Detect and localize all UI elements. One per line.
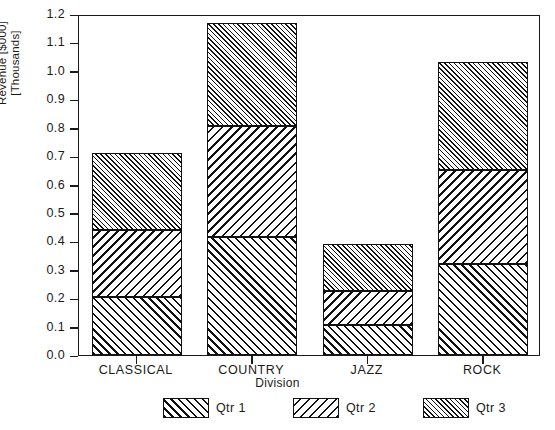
y-tick-label: 0.9: [46, 92, 65, 106]
x-tick-label: ROCK: [463, 363, 502, 377]
y-tick-mark: [70, 185, 78, 187]
legend-label: Qtr 3: [476, 401, 506, 415]
legend-swatch: [163, 398, 209, 418]
y-axis-title: Revenue [$000] [Thousands]: [0, 0, 22, 128]
legend-swatch: [293, 398, 339, 418]
legend-label: Qtr 2: [346, 401, 376, 415]
bar-segment: [92, 153, 182, 230]
y-tick-mark: [70, 213, 78, 215]
y-tick-label: 1.2: [46, 7, 65, 21]
bar-stack: [92, 153, 182, 355]
x-axis-title: Division: [0, 376, 555, 390]
legend-label: Qtr 1: [216, 401, 246, 415]
y-tick-label: 1.0: [46, 64, 65, 78]
y-tick-label: 1.1: [46, 35, 65, 49]
bar-segment: [92, 230, 182, 297]
y-tick-mark: [70, 327, 78, 329]
y-tick-mark: [70, 128, 78, 130]
y-tick-mark: [70, 15, 78, 17]
y-tick-label: 0.8: [46, 121, 65, 135]
y-tick-mark: [70, 43, 78, 45]
legend-item: Qtr 3: [423, 398, 506, 418]
y-tick-mark: [70, 157, 78, 159]
y-tick-label: 0.5: [46, 206, 65, 220]
y-tick-label: 0.7: [46, 149, 65, 163]
y-tick-mark: [70, 100, 78, 102]
bar-segment: [438, 264, 528, 355]
x-tick-label: CLASSICAL: [99, 363, 173, 377]
bar-segment: [207, 23, 297, 127]
chart-legend: Qtr 1Qtr 2Qtr 3: [0, 398, 555, 428]
legend-item: Qtr 2: [293, 398, 376, 418]
y-tick-mark: [70, 356, 78, 358]
bar-segment: [438, 170, 528, 264]
bar-segment: [207, 126, 297, 237]
x-tick-label: COUNTRY: [218, 363, 284, 377]
revenue-by-division-chart: Revenue [$000] [Thousands] 0.00.10.20.30…: [0, 0, 555, 430]
y-tick-mark: [70, 299, 78, 301]
legend-item: Qtr 1: [163, 398, 246, 418]
y-tick-mark: [70, 71, 78, 73]
y-tick-label: 0.1: [46, 320, 65, 334]
plot-area-frame: [78, 15, 540, 356]
y-tick-label: 0.0: [46, 348, 65, 362]
bar-segment: [323, 325, 413, 355]
y-tick-label: 0.4: [46, 234, 65, 248]
bar-stack: [438, 62, 528, 355]
plot-area: [79, 16, 539, 355]
bar-segment: [323, 244, 413, 291]
legend-swatch: [423, 398, 469, 418]
y-tick-label: 0.3: [46, 263, 65, 277]
bar-stack: [207, 23, 297, 355]
y-tick-label: 0.2: [46, 291, 65, 305]
bar-segment: [323, 291, 413, 325]
y-tick-label: 0.6: [46, 178, 65, 192]
bar-segment: [207, 237, 297, 355]
bar-segment: [92, 297, 182, 355]
y-tick-mark: [70, 270, 78, 272]
bar-stack: [323, 244, 413, 355]
x-tick-label: JAZZ: [351, 363, 383, 377]
y-tick-mark: [70, 242, 78, 244]
bar-segment: [438, 62, 528, 170]
